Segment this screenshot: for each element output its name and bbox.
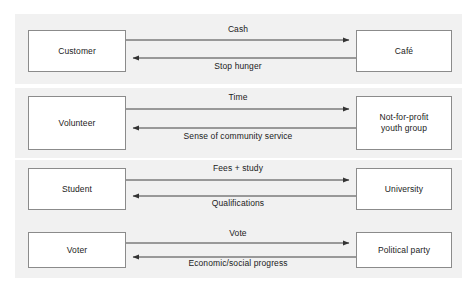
node-not-for-profit-youth-group: Not-for-profit youth group: [356, 96, 452, 150]
node-student-label: Student: [62, 184, 92, 195]
node-customer-label: Customer: [58, 46, 96, 57]
edge-label-time: Time: [126, 92, 350, 102]
exchange-relationships-diagram: Customer Café Cash Stop hunger Volunteer…: [0, 0, 475, 292]
edge-label-stop-hunger: Stop hunger: [126, 61, 350, 71]
edge-label-sense-of-community-service: Sense of community service: [126, 131, 350, 141]
edge-label-fees-plus-study: Fees + study: [126, 163, 350, 173]
node-not-for-profit-youth-group-label: Not-for-profit youth group: [379, 112, 428, 133]
node-student: Student: [28, 168, 126, 210]
node-cafe: Café: [356, 30, 452, 72]
edge-label-cash: Cash: [126, 24, 350, 34]
node-political-party: Political party: [356, 232, 452, 268]
edge-label-qualifications: Qualifications: [126, 198, 350, 208]
node-volunteer: Volunteer: [28, 96, 126, 150]
node-volunteer-label: Volunteer: [59, 118, 96, 129]
node-political-party-label: Political party: [378, 245, 430, 256]
node-cafe-label: Café: [395, 46, 413, 57]
node-university-label: University: [385, 184, 423, 195]
node-university: University: [356, 168, 452, 210]
edge-label-vote: Vote: [126, 228, 350, 238]
node-customer: Customer: [28, 30, 126, 72]
node-voter-label: Voter: [67, 245, 87, 256]
node-voter: Voter: [28, 232, 126, 268]
edge-label-economic-social-progress: Economic/social progress: [126, 258, 350, 268]
